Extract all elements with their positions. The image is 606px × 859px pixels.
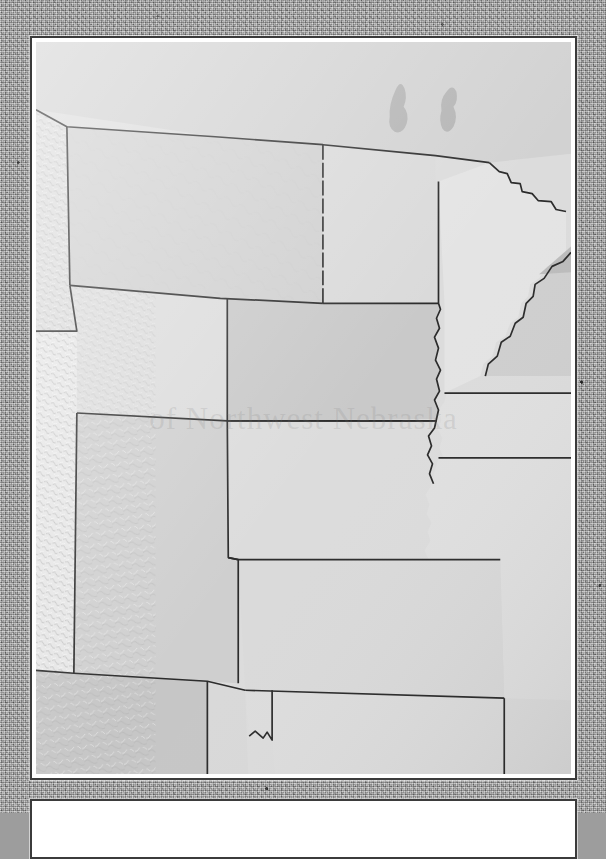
- lower-panel[interactable]: [30, 799, 577, 859]
- map-panel[interactable]: of Northwest Nebraska: [30, 36, 577, 780]
- map-sheen: [36, 42, 571, 774]
- map-canvas[interactable]: of Northwest Nebraska: [36, 42, 571, 774]
- lower-panel-content: [36, 805, 571, 853]
- relief-map-svg[interactable]: [36, 42, 571, 774]
